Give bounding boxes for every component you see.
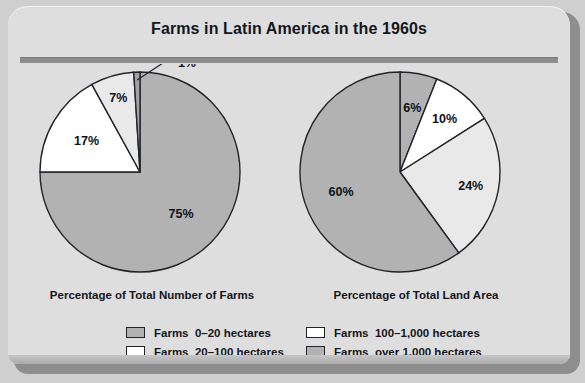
legend-item: Farms 100–1,000 hectares [306,324,482,341]
pie-caption-number-of-farms: Percentage of Total Number of Farms [22,289,282,301]
pie-chart-number-of-farms: 75%17%7%1% [30,64,250,288]
page-title: Farms in Latin America in the 1960s [8,20,570,38]
pie-caption-land-area: Percentage of Total Land Area [286,289,546,301]
pie-slice-label: 7% [109,91,127,105]
pie-chart-land-area: 6%10%24%60% [290,64,510,288]
pie-slice-label: 6% [403,101,421,115]
chart-card: Farms in Latin America in the 1960s 75%1… [8,6,570,364]
pie-slice-label: 1% [178,64,196,70]
pie-slice-label: 10% [432,112,457,126]
charts-area: 75%17%7%1% 6%10%24%60% Percentage of Tot… [8,62,570,310]
pie-slice-label: 75% [168,207,193,221]
legend-swatch-icon [126,327,145,338]
legend-item-label: Farms 100–1,000 hectares [334,327,480,339]
pie-slice-label: 24% [458,179,483,193]
pie-svg-land-area: 6%10%24%60% [290,64,510,284]
legend-item: Farms 0–20 hectares [126,324,284,341]
pie-slice-label: 17% [74,134,99,148]
pie-svg-number-of-farms: 75%17%7%1% [30,64,250,284]
legend-swatch-icon [306,327,325,338]
bottom-divider-rule [8,355,570,364]
legend-item-label: Farms 0–20 hectares [154,327,271,339]
pie-slice-label: 60% [329,185,354,199]
